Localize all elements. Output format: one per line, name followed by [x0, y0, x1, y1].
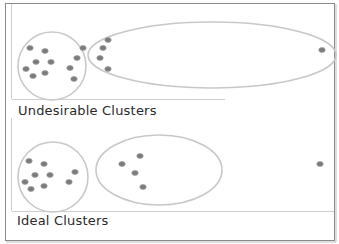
cluster-boundary-circle [18, 142, 88, 212]
data-point [72, 170, 78, 175]
data-point [42, 49, 48, 54]
data-point [66, 180, 72, 185]
data-point [22, 180, 28, 185]
data-point [23, 67, 29, 72]
data-point [80, 46, 86, 51]
ideal-clusters-panel [18, 135, 323, 212]
data-point [317, 162, 323, 167]
data-point [32, 173, 38, 178]
data-point [41, 162, 47, 167]
cluster-diagram [0, 0, 339, 244]
data-point [30, 74, 36, 79]
data-point [41, 184, 47, 189]
data-point [319, 48, 325, 53]
data-point [140, 185, 146, 190]
data-point [137, 154, 143, 159]
undesirable-clusters-panel [18, 22, 336, 100]
data-point [67, 66, 73, 71]
data-point [105, 67, 111, 72]
cluster-boundary-ellipse [96, 135, 222, 205]
data-point [74, 56, 80, 61]
ideal-clusters-label: Ideal Clusters [17, 213, 109, 228]
data-point [105, 38, 111, 43]
data-point [26, 159, 32, 164]
data-point [100, 46, 106, 51]
data-point [97, 56, 103, 61]
data-point [71, 77, 77, 82]
data-point [47, 173, 53, 178]
data-point [42, 71, 48, 76]
data-point [28, 187, 34, 192]
data-point [33, 60, 39, 65]
data-point [119, 162, 125, 167]
cluster-boundary-circle [18, 32, 86, 100]
undesirable-clusters-label: Undesirable Clusters [18, 103, 157, 118]
data-point [48, 60, 54, 65]
data-point [27, 46, 33, 51]
cluster-boundary-ellipse [88, 22, 336, 88]
data-point [132, 171, 138, 176]
